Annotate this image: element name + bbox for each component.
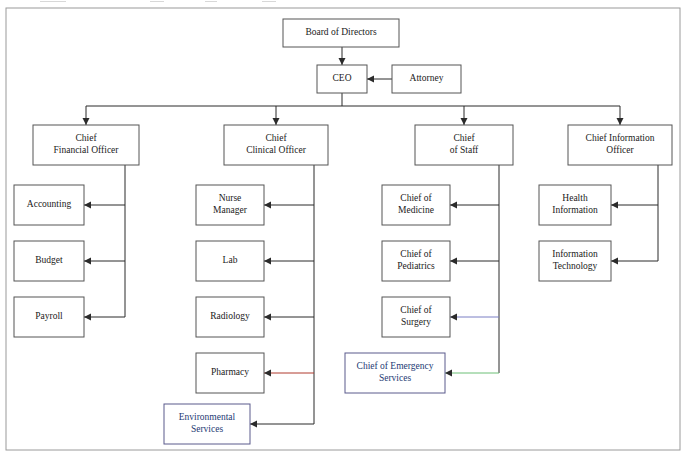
arrow-head <box>84 314 91 321</box>
arrow-head <box>264 314 271 321</box>
node-label-emergency: Services <box>379 373 411 383</box>
arrow-head <box>83 118 90 125</box>
org-chart-canvas: Board of DirectorsCEOAttorneyChiefFinanc… <box>0 0 686 465</box>
node-label-healthinfo: Information <box>552 205 598 215</box>
node-label-cco: Chief <box>265 133 287 143</box>
arrow-head <box>84 202 91 209</box>
arrow-head <box>273 118 280 125</box>
node-label-pharmacy: Pharmacy <box>211 367 249 377</box>
node-label-infotech: Information <box>552 249 598 259</box>
node-label-board: Board of Directors <box>305 27 377 37</box>
node-emergency[interactable]: Chief of EmergencyServices <box>345 353 445 393</box>
node-label-medicine: Chief of <box>400 193 432 203</box>
node-cio[interactable]: Chief InformationOfficer <box>568 125 672 165</box>
node-lab[interactable]: Lab <box>196 241 264 281</box>
node-label-cio: Chief Information <box>586 133 655 143</box>
node-label-lab: Lab <box>223 255 238 265</box>
node-label-cco: Clinical Officer <box>246 145 307 155</box>
arrow-head <box>339 58 346 65</box>
node-surgery[interactable]: Chief ofSurgery <box>382 297 450 337</box>
node-medicine[interactable]: Chief ofMedicine <box>382 185 450 225</box>
node-label-ceo: CEO <box>333 73 352 83</box>
node-label-cos: Chief <box>453 133 475 143</box>
node-infotech[interactable]: InformationTechnology <box>539 241 611 281</box>
node-label-emergency: Chief of Emergency <box>357 361 434 371</box>
org-chart-page: Board of DirectorsCEOAttorneyChiefFinanc… <box>0 0 686 465</box>
node-board[interactable]: Board of Directors <box>283 19 399 47</box>
node-label-nurse: Nurse <box>219 193 242 203</box>
node-label-budget: Budget <box>35 255 63 265</box>
node-label-envservices: Services <box>191 424 223 434</box>
node-label-medicine: Medicine <box>398 205 434 215</box>
node-label-radiology: Radiology <box>210 311 250 321</box>
node-healthinfo[interactable]: HealthInformation <box>539 185 611 225</box>
node-ceo[interactable]: CEO <box>317 65 367 93</box>
arrow-head <box>84 258 91 265</box>
node-label-accounting: Accounting <box>27 199 72 209</box>
node-layer: Board of DirectorsCEOAttorneyChiefFinanc… <box>14 19 672 444</box>
node-budget[interactable]: Budget <box>14 241 84 281</box>
arrow-head <box>264 202 271 209</box>
arrow-head <box>611 258 618 265</box>
arrow-head <box>264 258 271 265</box>
node-cos[interactable]: Chiefof Staff <box>415 125 513 165</box>
arrow-head <box>367 76 374 83</box>
arrow-head <box>264 370 271 377</box>
arrow-head <box>461 118 468 125</box>
arrow-head <box>445 370 452 377</box>
arrow-head <box>611 202 618 209</box>
node-cco[interactable]: ChiefClinical Officer <box>224 125 328 165</box>
node-label-cfo: Financial Officer <box>54 145 120 155</box>
node-label-attorney: Attorney <box>410 73 444 83</box>
node-label-pediatrics: Chief of <box>400 249 432 259</box>
node-label-surgery: Chief of <box>400 305 432 315</box>
arrow-head <box>450 202 457 209</box>
arrow-head <box>617 118 624 125</box>
node-payroll[interactable]: Payroll <box>14 297 84 337</box>
node-label-payroll: Payroll <box>35 311 63 321</box>
node-label-nurse: Manager <box>213 205 248 215</box>
node-label-infotech: Technology <box>553 261 598 271</box>
node-label-envservices: Environmental <box>179 412 236 422</box>
arrow-head <box>450 314 457 321</box>
node-pediatrics[interactable]: Chief ofPediatrics <box>382 241 450 281</box>
node-pharmacy[interactable]: Pharmacy <box>196 353 264 393</box>
node-label-cos: of Staff <box>450 145 479 155</box>
node-accounting[interactable]: Accounting <box>14 185 84 225</box>
arrow-head <box>250 421 257 428</box>
node-nurse[interactable]: NurseManager <box>196 185 264 225</box>
node-label-healthinfo: Health <box>562 193 588 203</box>
node-label-surgery: Surgery <box>401 317 431 327</box>
node-radiology[interactable]: Radiology <box>196 297 264 337</box>
arrow-head <box>450 258 457 265</box>
node-label-cio: Officer <box>606 145 634 155</box>
node-label-cfo: Chief <box>75 133 97 143</box>
node-attorney[interactable]: Attorney <box>392 65 461 93</box>
node-envservices[interactable]: EnvironmentalServices <box>164 404 250 444</box>
node-label-pediatrics: Pediatrics <box>397 261 435 271</box>
node-cfo[interactable]: ChiefFinancial Officer <box>33 125 139 165</box>
